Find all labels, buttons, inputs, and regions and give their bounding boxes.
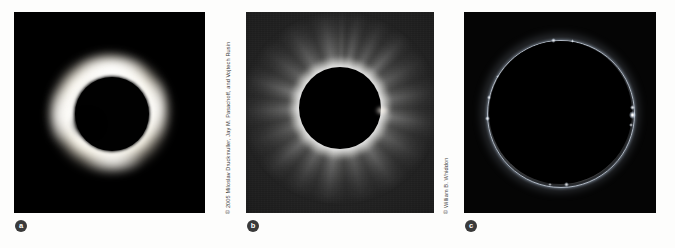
panel-b-photograph <box>246 12 434 213</box>
eclipse-figure: Jay M. Pasachoff and Shelly B. Kimmel, W… <box>0 0 675 248</box>
panel-a-photograph <box>14 12 205 213</box>
bailys-bead <box>496 75 499 78</box>
bailys-bead <box>551 38 556 43</box>
panel-b-label-badge: b <box>247 220 259 232</box>
panel-c-label-badge: c <box>465 220 477 232</box>
panel-b-lunar-disk <box>299 67 381 149</box>
panel-b: © 2005 Miloslav Druckmuller, Jay M. Pasa… <box>232 0 440 248</box>
panel-a: Jay M. Pasachoff and Shelly B. Kimmel, W… <box>0 0 207 248</box>
panel-c-lunar-disk <box>489 41 632 184</box>
bailys-bead <box>564 182 569 187</box>
panel-a-label-badge: a <box>15 220 27 232</box>
panel-a-dark-notch <box>72 111 102 137</box>
panel-c-photograph <box>464 12 656 213</box>
panel-c-credit: © William B. Whiddon <box>443 200 450 214</box>
bailys-bead <box>487 95 491 99</box>
bailys-bead <box>629 111 637 119</box>
bailys-bead <box>630 105 635 110</box>
bailys-bead <box>548 183 551 186</box>
panel-b-credit: © 2005 Miloslav Druckmuller, Jay M. Pasa… <box>225 200 232 214</box>
panel-c: © William B. Whiddon c <box>450 0 662 248</box>
panel-a-corona-lobe-left <box>44 79 78 153</box>
